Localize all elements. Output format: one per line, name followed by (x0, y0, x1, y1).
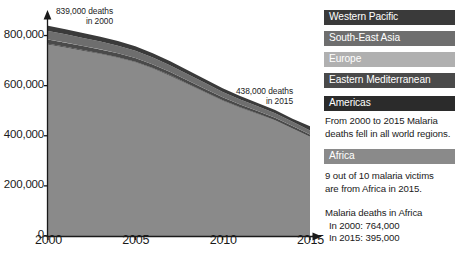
note-africa-line2: are from Africa in 2015. (325, 183, 457, 196)
legend-label-western-pacific: Western Pacific (329, 12, 398, 22)
annotation-end-line2: in 2015 (236, 96, 293, 106)
legend-label-south-east-asia: South-East Asia (329, 33, 400, 43)
legend-item-eastern-mediterranean[interactable]: Eastern Mediterranean (324, 73, 455, 88)
annotation-start-2000: 839,000 deaths in 2000 (56, 6, 113, 27)
note-global-decline: From 2000 to 2015 Malaria deaths fell in… (325, 115, 457, 140)
stacked-area-plot (0, 0, 322, 259)
legend-item-africa[interactable]: Africa (324, 149, 455, 164)
x-axis-tick-labels: 2000 2005 2010 2015 (0, 233, 322, 253)
x-tick-label-2015: 2015 (0, 233, 322, 247)
y-axis-arrowhead (44, 10, 52, 20)
legend-item-americas[interactable]: Americas (324, 96, 455, 111)
legend-label-europe: Europe (329, 54, 361, 64)
annotation-end-line1: 438,000 deaths (236, 86, 293, 96)
y-tick-label-400000: 400,000 (4, 128, 44, 140)
y-tick-label-600000: 600,000 (4, 78, 44, 90)
note-africa-statistics: Malaria deaths in Africa In 2000: 764,00… (325, 207, 457, 245)
africa-stat-2000: In 2000: 764,000 (325, 220, 457, 233)
note-africa-share: 9 out of 10 malaria victims are from Afr… (325, 170, 457, 195)
y-axis-tick-labels: 800,000 600,000 400,000 200,000 0 (0, 0, 44, 259)
legend-item-europe[interactable]: Europe (324, 52, 455, 67)
note-global-line1: From 2000 to 2015 Malaria (325, 115, 457, 128)
note-global-line2: deaths fell in all world regions. (325, 128, 457, 141)
legend-label-eastern-mediterranean: Eastern Mediterranean (329, 75, 431, 85)
series-layer (48, 26, 310, 236)
legend-label-americas: Americas (329, 98, 371, 108)
annotation-start-line2: in 2000 (56, 16, 113, 26)
annotation-start-line1: 839,000 deaths (56, 6, 113, 16)
africa-stat-2015: In 2015: 395,000 (325, 232, 457, 245)
legend-item-south-east-asia[interactable]: South-East Asia (324, 31, 455, 46)
annotation-end-2015: 438,000 deaths in 2015 (236, 86, 293, 107)
legend-and-notes-panel: Western Pacific South-East Asia Europe E… (324, 0, 457, 259)
note-africa-line1: 9 out of 10 malaria victims (325, 170, 457, 183)
chart-area: 800,000 600,000 400,000 200,000 0 2000 2… (0, 0, 322, 259)
africa-stat-title: Malaria deaths in Africa (325, 207, 457, 220)
legend-item-western-pacific[interactable]: Western Pacific (324, 10, 455, 25)
malaria-deaths-chart-figure: 800,000 600,000 400,000 200,000 0 2000 2… (0, 0, 457, 259)
legend-label-africa: Africa (329, 151, 354, 161)
y-tick-label-800000: 800,000 (4, 28, 44, 40)
y-tick-label-200000: 200,000 (4, 178, 44, 190)
